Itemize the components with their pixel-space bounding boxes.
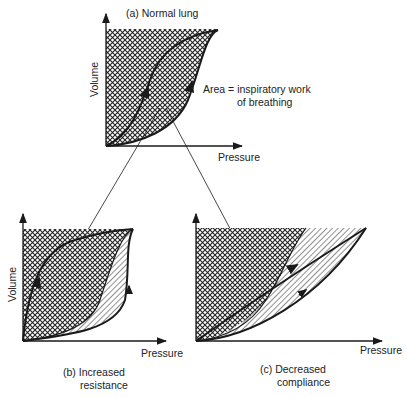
panel-a-normal-lung: (a) Normal lung Volume Pressure Area = i… [88, 7, 311, 163]
panel-b-caption-line2: resistance [80, 379, 128, 391]
panel-b-increased-resistance: Volume Pressure (b) Increased resistance [6, 214, 183, 391]
annotation-line2: of breathing [237, 96, 293, 108]
panel-a-caption: (a) Normal lung [126, 7, 199, 19]
panel-c-decreased-compliance: Pressure (c) Decreased compliance [196, 214, 402, 388]
panel-c-caption-line2: compliance [277, 376, 330, 388]
panel-b-x-label: Pressure [141, 347, 183, 359]
panel-b-y-label: Volume [6, 267, 18, 302]
panel-a-x-label: Pressure [218, 151, 260, 163]
pressure-volume-diagram: (a) Normal lung Volume Pressure Area = i… [0, 0, 407, 397]
panel-b-caption-line1: (b) Increased [63, 366, 125, 378]
annotation-line1: Area = inspiratory work [203, 83, 311, 95]
panel-c-x-label: Pressure [360, 344, 402, 356]
panel-a-y-label: Volume [88, 62, 100, 97]
panel-c-caption-line1: (c) Decreased [260, 363, 326, 375]
